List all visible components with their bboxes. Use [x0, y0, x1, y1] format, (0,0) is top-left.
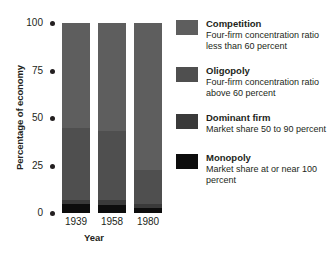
bar-1939	[62, 23, 90, 213]
legend-text: OligopolyFour-firm concentration ratio a…	[206, 65, 334, 98]
legend-description: Four-firm concentration ratio less than …	[206, 30, 334, 51]
legend-description: Four-firm concentration ratio above 60 p…	[206, 77, 334, 98]
y-tick-50: 50	[0, 112, 57, 124]
x-tick-label-1958: 1958	[92, 216, 132, 227]
legend-swatch-icon	[176, 114, 198, 129]
bar-segment-monopoly	[98, 205, 126, 213]
bar-segment-dominant-firm	[98, 200, 126, 206]
x-axis-title: Year	[62, 232, 126, 243]
legend-label: Oligopoly	[206, 65, 334, 77]
bar-segment-competition	[98, 23, 126, 131]
legend-description: Market share at or near 100 percent	[206, 164, 334, 185]
y-tick-label: 75	[32, 65, 43, 77]
y-tick-dot-icon	[50, 69, 55, 74]
legend-label: Competition	[206, 18, 334, 30]
legend-label: Monopoly	[206, 152, 334, 164]
bar-1958	[98, 23, 126, 213]
y-tick-75: 75	[0, 65, 57, 77]
bar-segment-monopoly	[134, 208, 162, 213]
y-tick-dot-icon	[50, 211, 55, 216]
y-tick-dot-icon	[50, 116, 55, 121]
x-tick-label-1980: 1980	[128, 216, 168, 227]
legend-label: Dominant firm	[206, 112, 334, 124]
y-tick-25: 25	[0, 160, 57, 172]
y-tick-label: 50	[32, 112, 43, 124]
y-tick-100: 100	[0, 17, 57, 29]
y-tick-dot-icon	[50, 164, 55, 169]
bar-segment-competition	[62, 23, 90, 128]
bar-1980	[134, 23, 162, 213]
plot-area	[62, 23, 168, 213]
y-tick-label: 100	[26, 17, 43, 29]
y-tick-0: 0	[0, 207, 57, 219]
bar-segment-monopoly	[62, 204, 90, 214]
legend-swatch-icon	[176, 154, 198, 169]
x-tick-label-1939: 1939	[56, 216, 96, 227]
y-tick-dot-icon	[50, 21, 55, 26]
legend-description: Market share 50 to 90 percent	[206, 124, 334, 135]
chart-figure: Percentage of economy 0255075100 1939195…	[0, 0, 334, 270]
legend-swatch-icon	[176, 20, 198, 35]
legend-swatch-icon	[176, 67, 198, 82]
bar-segment-oligopoly	[98, 131, 126, 199]
bar-segment-oligopoly	[134, 170, 162, 204]
bar-segment-dominant-firm	[134, 204, 162, 208]
y-tick-label: 0	[37, 207, 43, 219]
bar-segment-competition	[134, 23, 162, 170]
bar-segment-dominant-firm	[62, 200, 90, 204]
legend-text: CompetitionFour-firm concentration ratio…	[206, 18, 334, 51]
y-tick-label: 25	[32, 160, 43, 172]
bar-segment-oligopoly	[62, 128, 90, 200]
legend-text: MonopolyMarket share at or near 100 perc…	[206, 152, 334, 185]
legend-text: Dominant firmMarket share 50 to 90 perce…	[206, 112, 334, 135]
